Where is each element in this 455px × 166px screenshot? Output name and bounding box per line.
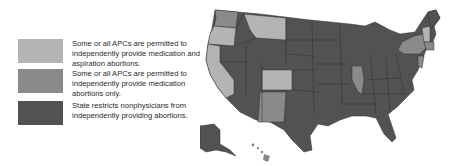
- legend-item-medication-only: Some or all APCs are permitted to indepe…: [18, 69, 212, 99]
- state-alaska: [200, 124, 236, 156]
- legend-label: State restricts nonphysicians from indep…: [72, 101, 212, 121]
- legend-item-restricted: State restricts nonphysicians from indep…: [18, 101, 212, 125]
- legend-swatch-dark: [18, 101, 63, 125]
- state-massachusetts: [424, 42, 434, 50]
- state-colorado: [262, 70, 292, 90]
- state-mainland-dark: [206, 10, 440, 152]
- legend-swatch-light: [18, 39, 63, 63]
- legend-label: Some or all APCs are permitted to indepe…: [72, 69, 212, 99]
- state-new-jersey: [418, 56, 424, 68]
- map-legend: Some or all APCs are permitted to indepe…: [0, 0, 210, 166]
- legend-item-medication-and-aspiration: Some or all APCs are permitted to indepe…: [18, 39, 212, 69]
- legend-swatch-medium: [18, 69, 63, 93]
- legend-label: Some or all APCs are permitted to indepe…: [72, 39, 212, 69]
- us-map: [200, 4, 455, 164]
- state-washington: [214, 10, 238, 28]
- state-hawaii: [252, 144, 270, 162]
- state-maine: [428, 10, 440, 28]
